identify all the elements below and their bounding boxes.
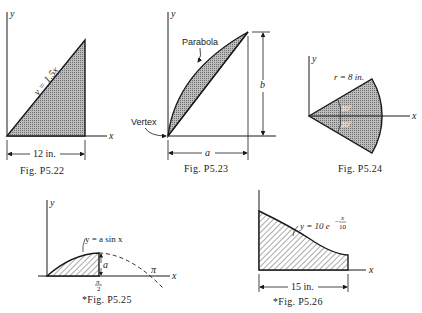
y-axis-label: y [170, 8, 176, 19]
curve-label: y = a sin x [85, 234, 123, 244]
caption: *Fig. P5.25 [82, 294, 132, 305]
parabola-label: Parabola [182, 37, 218, 47]
vertex-label: Vertex [131, 117, 157, 127]
half-pi-denominator: 2 [97, 285, 101, 293]
pi-label: π [151, 264, 157, 275]
y-axis-label: y [49, 197, 55, 208]
caption: Fig. P5.24 [338, 163, 382, 174]
dimension-label: 12 in. [33, 148, 56, 159]
curve-label: y = 10 e [299, 221, 330, 231]
sine-area [47, 253, 99, 276]
curve-exponent-denominator: 10 [339, 223, 347, 231]
x-axis-label: x [108, 130, 114, 141]
figure-p5-26: x y = 10 e − x 10 15 in. *Fig. P5.26 [259, 190, 374, 307]
lower-angle-label: 30° [341, 121, 352, 128]
dimension-label: 15 in. [291, 281, 314, 292]
y-axis-label: y [311, 53, 317, 64]
figure-p5-24: y x r = 8 in. 30° 30° Fig. P5.24 [309, 53, 417, 174]
figures-canvas: y x y = 1.5x 12 in. Fig. P5.22 y Parabol… [0, 0, 422, 313]
x-axis-label: x [171, 270, 177, 281]
width-dimension-label: a [205, 147, 210, 158]
figure-p5-23: y Parabola Vertex b a Fig. P5.23 [131, 8, 276, 174]
radius-label: r = 8 in. [334, 72, 364, 82]
caption: Fig. P5.23 [184, 163, 228, 174]
x-axis-label: x [411, 110, 417, 121]
amplitude-label: a [103, 259, 108, 270]
upper-angle-label: 30° [341, 105, 352, 112]
y-axis-label: y [9, 8, 15, 19]
caption: Fig. P5.22 [20, 165, 64, 176]
x-axis-label: x [368, 264, 374, 275]
figure-p5-25: y x y = a sin x a π 2 π *Fig. P5.25 [38, 197, 177, 305]
caption: *Fig. P5.26 [273, 296, 323, 307]
curve-exponent-numerator: x [340, 214, 345, 222]
figure-p5-22: y x y = 1.5x 12 in. Fig. P5.22 [7, 8, 114, 176]
height-dimension-label: b [260, 79, 265, 90]
